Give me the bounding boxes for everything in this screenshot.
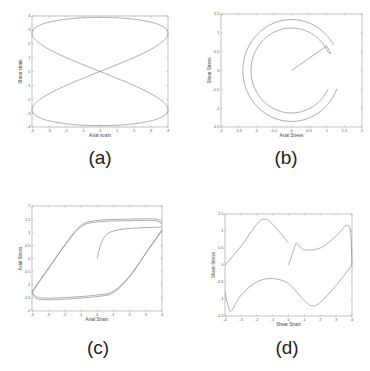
x-axis-label: Axial Stress — [280, 133, 305, 138]
y-tick-label: -2 — [27, 97, 31, 102]
hook — [327, 46, 331, 54]
x-tick-label: -3 — [47, 128, 51, 133]
stress-strain-branch — [225, 265, 352, 311]
y-tick-label: 3 — [28, 27, 31, 32]
x-axis-label: Axial strain — [89, 133, 112, 138]
caption-a: (a) — [70, 147, 130, 169]
y-tick-label: 1.5 — [218, 211, 224, 216]
x-tick-label: -2 — [219, 128, 223, 133]
stress-arc — [243, 20, 337, 122]
x-tick-label: 4 — [351, 317, 354, 322]
x-tick-label: 1 — [116, 128, 119, 133]
stress-strain-branch — [289, 243, 297, 265]
hysteresis-branch — [32, 219, 162, 293]
y-axis-label: Axial Stress — [18, 246, 23, 271]
caption-c: (c) — [68, 337, 128, 359]
x-tick-label: 1 — [112, 312, 115, 317]
y-tick-label: 1 — [217, 30, 220, 35]
x-tick-label: 2 — [133, 128, 136, 133]
y-axis-label: Shear Stress — [207, 57, 212, 84]
caption-b: (b) — [256, 147, 316, 169]
x-tick-label: -2 — [255, 317, 259, 322]
y-tick-label: 0 — [217, 68, 220, 73]
x-tick-label: 3 — [335, 317, 338, 322]
y-tick-label: -1 — [220, 296, 224, 301]
initial-path — [292, 46, 327, 70]
hysteresis-branch — [97, 227, 162, 259]
y-tick-label: 0 — [28, 69, 31, 74]
y-tick-label: 0.5 — [25, 243, 31, 248]
stress-arc — [251, 28, 328, 113]
x-tick-label: -1 — [81, 128, 85, 133]
y-tick-label: -0.5 — [217, 279, 225, 284]
x-tick-label: 1 — [303, 317, 306, 322]
chart-c: -4-3-2-101234-2-1.5-1-0.500.511.52Axial … — [0, 185, 185, 371]
x-tick-label: 4 — [161, 312, 164, 317]
x-tick-label: 2 — [361, 128, 364, 133]
y-tick-label: 1 — [28, 55, 31, 60]
hysteresis-branch — [32, 220, 162, 291]
y-tick-label: -1.5 — [24, 295, 32, 300]
y-tick-label: 0 — [221, 262, 224, 267]
y-tick-label: 1.5 — [214, 11, 220, 16]
x-tick-label: -3 — [46, 312, 50, 317]
y-tick-label: 4 — [28, 13, 31, 18]
y-tick-label: -1 — [216, 106, 220, 111]
x-tick-label: -3 — [239, 317, 243, 322]
x-tick-label: 4 — [167, 128, 170, 133]
x-tick-label: -2 — [63, 312, 67, 317]
y-tick-label: -1.5 — [217, 313, 225, 318]
y-axis-label: Shear Stress — [211, 251, 216, 278]
y-tick-label: 0.5 — [214, 49, 220, 54]
y-tick-label: -0.5 — [213, 87, 221, 92]
x-tick-label: -4 — [30, 312, 34, 317]
x-tick-label: 2 — [319, 317, 322, 322]
x-axis-label: Axial Strain — [86, 317, 109, 322]
lissajous-curve — [32, 17, 168, 125]
x-tick-label: -1.5 — [235, 128, 243, 133]
x-tick-label: -1 — [271, 317, 275, 322]
y-tick-label: -0.5 — [24, 269, 32, 274]
x-tick-label: 3 — [145, 312, 148, 317]
y-tick-label: 2 — [28, 41, 31, 46]
x-tick-label: -1 — [79, 312, 83, 317]
y-tick-label: 0 — [28, 256, 31, 261]
y-tick-label: 2 — [28, 203, 31, 208]
stress-strain-branch — [296, 225, 352, 265]
y-tick-label: 0.5 — [218, 245, 224, 250]
x-tick-label: 0.5 — [306, 128, 312, 133]
x-tick-label: 3 — [150, 128, 153, 133]
chart-d: -4-3-2-101234-1.5-1-0.500.511.5Shear Str… — [185, 185, 370, 371]
stress-strain-branch — [225, 219, 289, 265]
y-tick-label: -1 — [27, 83, 31, 88]
y-tick-label: 1 — [221, 228, 224, 233]
x-tick-label: -1 — [254, 128, 258, 133]
x-tick-label: -4 — [30, 128, 34, 133]
y-tick-label: -1 — [27, 282, 31, 287]
y-tick-label: -1.5 — [213, 124, 221, 129]
x-axis-label: Shear Strain — [276, 322, 302, 327]
caption-d: (d) — [257, 337, 317, 359]
y-tick-label: 1.5 — [25, 217, 31, 222]
y-tick-label: -3 — [27, 111, 31, 116]
x-tick-label: 2 — [128, 312, 131, 317]
y-tick-label: 1 — [28, 230, 31, 235]
chart-a: -4-3-2-101234-4-3-2-101234Axial strainSh… — [0, 0, 185, 185]
chart-b: -2-1.5-1-0.500.511.52-1.5-1-0.500.511.5A… — [185, 0, 370, 185]
x-tick-label: -0.5 — [270, 128, 278, 133]
x-tick-label: -4 — [223, 317, 227, 322]
x-tick-label: 1.5 — [342, 128, 348, 133]
x-tick-label: 1 — [326, 128, 329, 133]
y-axis-label: Shear strain — [18, 59, 23, 84]
x-tick-label: -2 — [64, 128, 68, 133]
